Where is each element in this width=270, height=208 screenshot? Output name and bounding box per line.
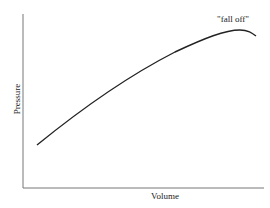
pressure-volume-chart <box>0 0 270 208</box>
y-axis-label: Pressure <box>12 84 22 115</box>
pressure-curve <box>37 30 256 145</box>
fall-off-annotation: "fall off" <box>217 14 249 24</box>
x-axis-label: Volume <box>0 191 270 201</box>
